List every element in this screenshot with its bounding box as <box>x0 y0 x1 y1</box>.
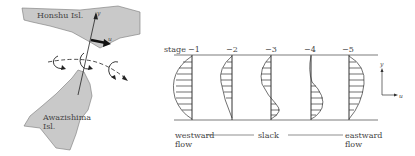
profile-stage-4 <box>310 55 323 120</box>
awajishima-label-isl: Isl. <box>43 122 55 131</box>
slack-label: slack <box>258 131 279 140</box>
stage-prefix-label: stage <box>164 45 186 54</box>
awajishima-island <box>24 70 92 150</box>
westward-flow-label: flow <box>175 140 192 149</box>
profile-stage-2 <box>220 55 232 120</box>
legend-y-arrowhead <box>381 68 384 72</box>
profile-stage-5 <box>349 55 364 120</box>
stage-4-label: −4 <box>304 45 316 54</box>
stage-5-label: −5 <box>342 45 354 54</box>
eddy-center-arrowhead <box>88 65 93 70</box>
map-y-label: y <box>97 8 100 17</box>
eastward-flow-label: flow <box>345 140 362 149</box>
eddy-right-arrowhead <box>111 75 116 80</box>
eastward-label: eastward <box>345 131 382 140</box>
westward-label: westward <box>175 131 214 140</box>
profile-stage-3 <box>261 55 280 120</box>
honshu-label: Honshu Isl. <box>37 11 83 20</box>
legend-u-label: u <box>399 91 403 100</box>
stage-1-label: −1 <box>188 45 200 54</box>
stage-2-label: −2 <box>226 45 238 54</box>
stage-3-label: −3 <box>265 45 277 54</box>
awajishima-label: Awazishima <box>43 113 91 122</box>
profile-stage-1 <box>173 55 192 120</box>
legend-u-arrowhead <box>394 94 398 97</box>
map-u-label: u <box>108 34 112 43</box>
legend-y-label: y <box>380 59 383 68</box>
eddy-left-arrowhead <box>61 65 66 70</box>
